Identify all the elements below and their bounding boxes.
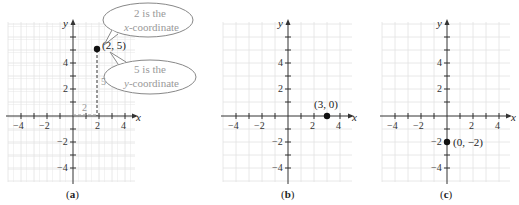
panel-c-tick-y-m4: −4	[431, 163, 442, 173]
panel-a-tick-y-m2: −2	[57, 137, 68, 147]
panel-c-tick-x-m2: −2	[413, 121, 424, 131]
panel-a-tick-x-m4: −4	[13, 121, 24, 131]
panel-a-tick-x-4: 4	[121, 121, 126, 131]
panel-c-caption: (c)	[440, 188, 452, 200]
panel-a-point-label: (2, 5)	[102, 40, 126, 51]
panel-b-tick-x-2: 2	[310, 121, 315, 131]
caption-close: )	[291, 188, 295, 200]
panel-b-tick-y-4: 4	[278, 58, 283, 68]
panel-b-tick-x-m4: −4	[228, 121, 239, 131]
callout-y-line1: 5 is the	[134, 63, 166, 75]
callout-y-rest: -coordinate	[129, 77, 179, 89]
panel-b-point-label: (3, 0)	[314, 99, 338, 110]
panel-c-tick-x-m4: −4	[387, 121, 398, 131]
panel-b-tick-x-m2: −2	[254, 121, 265, 131]
panel-a-y-axis-label: y	[63, 18, 68, 29]
panel-b-tick-y-2: 2	[278, 84, 283, 94]
panel-b-x-axis-label: x	[352, 112, 357, 123]
callout-x-coordinate: 2 is the x-coordinate	[124, 6, 176, 34]
panel-c-tick-y-m2: −2	[431, 137, 442, 147]
panel-a-caption: (a)	[66, 188, 79, 200]
panel-a-guide-label-2: 2	[82, 103, 87, 113]
panel-c-plot	[380, 19, 512, 184]
panel-a-tick-x-m2: −2	[39, 121, 50, 131]
callout-x-rest: -coordinate	[129, 21, 179, 33]
panel-c-tick-y-2: 2	[437, 84, 442, 94]
panel-c-x-axis-label: x	[511, 112, 516, 123]
panel-a-tick-y-2: 2	[63, 84, 68, 94]
panel-c-tick-x-2: 2	[469, 121, 474, 131]
caption-close: )	[449, 188, 453, 200]
panel-b-y-axis-label: y	[278, 18, 283, 29]
panel-a-x-axis-label: x	[136, 112, 141, 123]
point-0-m2	[444, 139, 450, 145]
panel-c-tick-x-4: 4	[495, 121, 500, 131]
graphs-canvas	[0, 0, 519, 205]
panel-a-tick-y-m4: −4	[57, 163, 68, 173]
point-3-0	[324, 113, 330, 119]
panel-b-caption: (b)	[281, 188, 294, 200]
panel-b-tick-y-m2: −2	[272, 137, 283, 147]
callout-x-line1: 2 is the	[134, 7, 166, 19]
point-2-5	[94, 46, 100, 52]
panel-a-tick-x-2: 2	[95, 121, 100, 131]
callout-y-coordinate: 5 is the y-coordinate	[124, 62, 176, 90]
panel-b-tick-x-4: 4	[336, 121, 341, 131]
panel-a-guide-label-5: 5	[101, 77, 106, 87]
panel-c-y-axis-label: y	[437, 18, 442, 29]
caption-close: )	[75, 188, 79, 200]
panel-b-tick-y-m4: −4	[272, 163, 283, 173]
panel-a-tick-y-4: 4	[63, 58, 68, 68]
panel-c-tick-y-4: 4	[437, 58, 442, 68]
panel-c-point-label: (0, −2)	[453, 137, 483, 148]
